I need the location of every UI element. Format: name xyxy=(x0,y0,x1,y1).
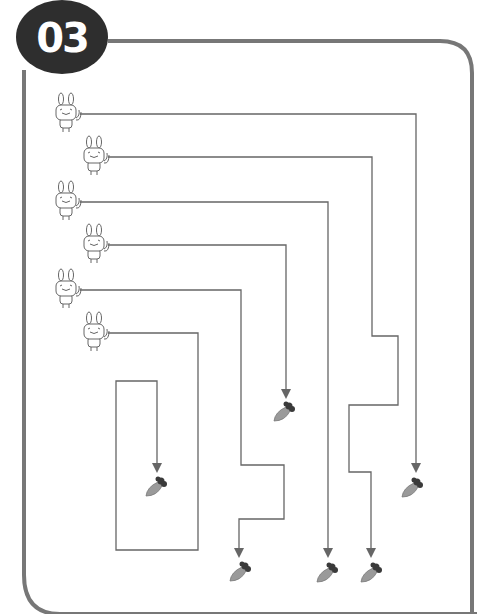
path-rabbit-3 xyxy=(80,202,333,558)
arrow-head-icon xyxy=(152,463,162,473)
rabbit-icon-2 xyxy=(84,136,109,175)
rabbit-icon-1 xyxy=(56,93,81,132)
path-rabbit-4 xyxy=(108,245,291,399)
rabbit-icon-3 xyxy=(56,181,81,220)
maze-paths xyxy=(80,114,421,558)
carrot-icon xyxy=(402,478,423,498)
carrot-icon xyxy=(317,563,338,583)
arrow-head-icon xyxy=(323,548,333,558)
puzzle-number: 03 xyxy=(36,15,88,61)
rabbit-icon-4 xyxy=(84,224,109,263)
arrow-head-icon xyxy=(234,548,244,558)
path-rabbit-2 xyxy=(108,157,398,558)
puzzle-number-badge: 03 xyxy=(16,0,108,74)
carrot-icon xyxy=(361,563,382,583)
maze-canvas xyxy=(0,0,477,614)
rabbit-icon-5 xyxy=(56,269,81,308)
path-rabbit-1 xyxy=(80,114,421,473)
rabbits xyxy=(56,93,109,351)
carrot-icon xyxy=(274,402,295,422)
path-rabbit-6 xyxy=(108,333,198,550)
arrow-head-icon xyxy=(281,389,291,399)
path-rabbit-5 xyxy=(80,290,284,558)
maze-puzzle: 03 xyxy=(0,0,477,614)
rabbit-icon-6 xyxy=(84,312,109,351)
carrot-icon xyxy=(230,562,251,582)
arrow-head-icon xyxy=(366,548,376,558)
carrot-icon xyxy=(146,477,167,497)
arrow-head-icon xyxy=(411,463,421,473)
